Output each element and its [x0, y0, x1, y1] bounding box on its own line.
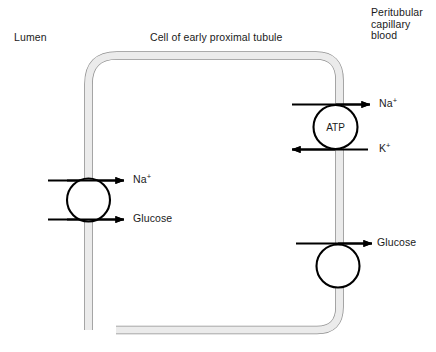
transporter-apical-sglt: [48, 179, 124, 222]
transporter-basolateral-glut: [296, 244, 372, 288]
transporter-basolateral-atpase: ATP: [292, 105, 370, 150]
label-basolateral-glucose-text: Glucose: [377, 236, 416, 248]
diagram-canvas: Lumen Cell of early proximal tubule Peri…: [0, 0, 436, 352]
cell-diagram-svg: ATP: [0, 0, 436, 352]
label-apical-sodium-charge: +: [147, 172, 151, 181]
label-apical-sodium-text: Na: [133, 173, 147, 185]
cell-membrane: [89, 56, 340, 331]
label-basolateral-sodium-charge: +: [393, 96, 397, 105]
label-apical-glucose-text: Glucose: [133, 212, 172, 224]
label-basolateral-potassium: K+: [379, 143, 391, 155]
carrier-circle-apical: [67, 179, 110, 222]
label-basolateral-sodium-text: Na: [379, 97, 393, 109]
label-apical-sodium: Na+: [133, 174, 151, 186]
label-apical-glucose: Glucose: [133, 213, 172, 225]
atp-inner-label: ATP: [326, 122, 345, 133]
label-basolateral-sodium: Na+: [379, 98, 397, 110]
label-basolateral-glucose: Glucose: [377, 237, 416, 249]
carrier-circle-glut: [317, 245, 360, 288]
label-basolateral-potassium-charge: +: [386, 141, 390, 150]
